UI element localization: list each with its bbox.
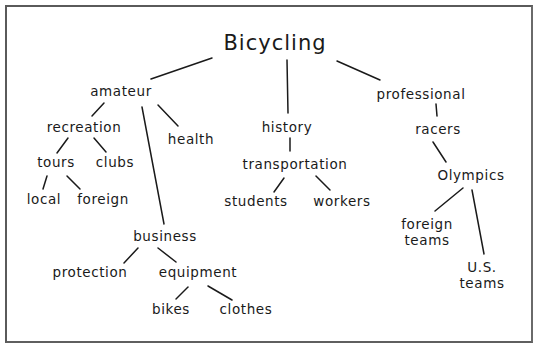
edge-olympics-us-teams (472, 190, 484, 254)
node-bicycling: Bicycling (223, 31, 326, 55)
edge-olympics-foreign-teams (435, 188, 463, 211)
node-protection: protection (53, 265, 128, 280)
node-equipment: equipment (159, 265, 237, 280)
edge-amateur-business (142, 107, 164, 224)
node-students: students (224, 194, 287, 209)
edge-tours-local (43, 176, 47, 189)
edge-recreation-clubs (94, 138, 106, 152)
node-tours: tours (37, 155, 75, 170)
node-bikes: bikes (152, 302, 190, 317)
edge-amateur-recreation (92, 103, 104, 116)
edge-tours-foreign (67, 176, 80, 189)
node-business: business (133, 229, 197, 244)
edge-transportation-students (274, 178, 284, 192)
edge-business-protection (124, 248, 138, 263)
node-recreation: recreation (47, 120, 122, 135)
edge-equipment-bikes (176, 287, 188, 299)
node-us-teams-line2: teams (459, 276, 504, 291)
node-foreign-teams-line1: foreign (401, 217, 453, 232)
edge-amateur-health (158, 105, 178, 126)
edge-bicycling-history (287, 60, 288, 113)
node-foreign-teams-line2: teams (404, 233, 449, 248)
edge-equipment-clothes (208, 286, 232, 300)
edge-business-equipment (158, 248, 176, 262)
node-clothes: clothes (220, 302, 273, 317)
node-transportation: transportation (243, 157, 348, 172)
node-olympics: Olympics (437, 168, 504, 183)
node-clubs: clubs (96, 155, 134, 170)
node-us-teams-line1: U.S. (467, 260, 496, 275)
node-amateur: amateur (90, 84, 152, 99)
node-racers: racers (415, 122, 461, 137)
edge-bicycling-professional (337, 61, 380, 80)
edge-recreation-tours (57, 138, 68, 153)
edge-professional-racers (436, 104, 437, 116)
edge-racers-olympics (433, 142, 446, 162)
node-foreign: foreign (77, 192, 129, 207)
edge-transportation-workers (316, 176, 330, 190)
node-workers: workers (313, 194, 370, 209)
node-local: local (27, 192, 61, 207)
edge-bicycling-amateur (151, 58, 212, 79)
node-history: history (262, 120, 313, 135)
node-professional: professional (377, 87, 466, 102)
node-health: health (168, 132, 214, 147)
